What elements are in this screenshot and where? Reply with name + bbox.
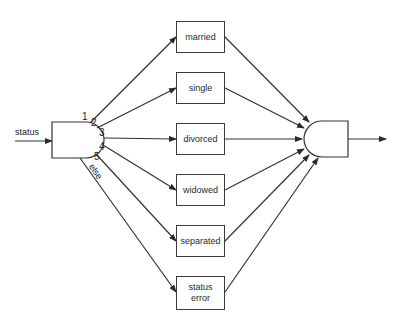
box-divorced: divorced <box>176 123 225 155</box>
merge-arrow-status-error <box>225 158 318 292</box>
merge-arrow-widowed <box>225 149 304 190</box>
branch-label-5: 5 <box>94 152 100 162</box>
box-separated: separated <box>176 225 225 257</box>
branch-arrow-single <box>97 88 176 128</box>
merge-gate <box>304 121 348 157</box>
branch-label-3: 3 <box>99 128 105 138</box>
branch-arrow-divorced <box>104 138 176 139</box>
input-label: status <box>15 127 39 137</box>
merge-arrow-single <box>225 88 304 128</box>
branch-label-2: 2 <box>91 118 97 128</box>
branch-arrow-widowed <box>103 145 176 190</box>
box-married: married <box>176 21 225 53</box>
box-widowed: widowed <box>176 174 225 206</box>
branch-label-1: 1 <box>82 112 88 122</box>
box-single: single <box>176 72 225 104</box>
box-status-error: status error <box>176 276 225 310</box>
